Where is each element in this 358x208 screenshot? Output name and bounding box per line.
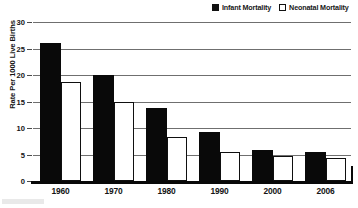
y-tick-label: 5 (21, 150, 25, 159)
y-axis-title: Rate Per 1000 Live Births (8, 5, 17, 125)
x-tick-label: 2000 (263, 186, 281, 196)
x-tick-label: 1970 (104, 186, 122, 196)
legend-label: Neonatal Mortality (289, 4, 349, 11)
x-axis-baseline (31, 181, 353, 184)
y-tick-label: 25 (17, 44, 25, 53)
bar-neonatal-2000 (273, 156, 294, 181)
y-tick-label: 15 (17, 97, 25, 106)
chart-legend: Infant MortalityNeonatal Mortality (212, 1, 358, 14)
bar-infant-1970 (93, 75, 114, 181)
gridline (33, 75, 351, 76)
y-tick-mark (27, 128, 32, 129)
filled-square-icon (212, 4, 219, 11)
hollow-square-icon (279, 4, 286, 11)
bar-neonatal-1980 (167, 137, 188, 181)
bar-infant-1990 (199, 132, 220, 181)
legend-label: Infant Mortality (222, 4, 271, 11)
gridline (33, 49, 351, 50)
y-tick-mark (27, 102, 32, 103)
right-axis-spine (351, 166, 353, 184)
x-tick-label: 1960 (51, 186, 69, 196)
scan-artifact (2, 199, 44, 204)
y-tick-mark (27, 155, 32, 156)
y-tick-mark (27, 75, 32, 76)
bar-infant-1960 (40, 43, 61, 181)
x-tick-label: 1990 (210, 186, 228, 196)
y-tick-mark (27, 22, 32, 23)
plot-area: 051015202530 (33, 22, 351, 181)
y-tick-label: 20 (17, 71, 25, 80)
bar-infant-1980 (146, 108, 167, 181)
legend-entry: Neonatal Mortality (279, 4, 349, 11)
gridline (33, 22, 351, 23)
x-tick-label: 2006 (316, 186, 334, 196)
bar-infant-2006 (305, 152, 326, 181)
x-tick-label: 1980 (157, 186, 175, 196)
y-tick-label: 30 (17, 18, 25, 27)
bar-neonatal-1960 (61, 82, 82, 181)
bar-neonatal-2006 (326, 158, 347, 181)
bar-neonatal-1990 (220, 152, 241, 181)
infant-neonatal-mortality-bar-chart: Infant MortalityNeonatal Mortality Rate … (0, 0, 358, 208)
legend-entry: Infant Mortality (212, 4, 271, 11)
bar-neonatal-1970 (114, 102, 135, 182)
y-tick-label: 10 (17, 124, 25, 133)
y-tick-mark (27, 49, 32, 50)
bar-infant-2000 (252, 150, 273, 181)
y-tick-label: 0 (21, 177, 25, 186)
